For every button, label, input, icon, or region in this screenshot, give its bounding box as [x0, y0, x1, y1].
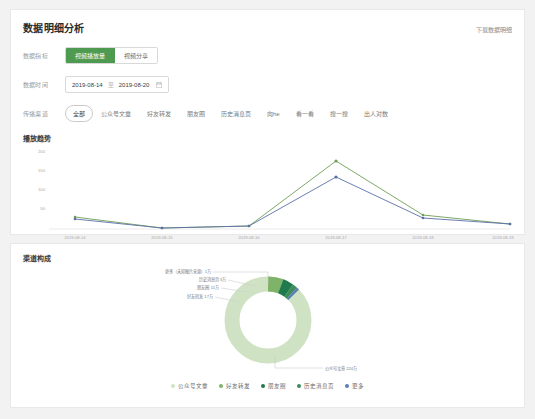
dashboard-page: 数据明细分析 下载数据明细 数据指标 视频播放量 视频分享 数据时间 2019-…: [0, 0, 535, 419]
series-points-plays: [74, 159, 512, 229]
xtick-0: 2019-08-14: [64, 235, 86, 240]
xtick-1: 2019-08-15: [151, 235, 173, 240]
ytick-50: 50: [40, 206, 45, 211]
metric-filter-label: 数据指标: [23, 51, 65, 60]
donut-legend-dot-history-page: [297, 384, 301, 388]
donut-legend-item-more[interactable]: 更多: [345, 382, 364, 390]
line-chart-svg: 200 150 100 50: [23, 145, 514, 245]
trend-section-title: 播放趋势: [23, 133, 512, 143]
callout-more: 更多（未知图片来源）1万: [165, 268, 211, 275]
metric-filter-row: 数据指标 视频播放量 视频分享: [23, 47, 512, 64]
chip-channel-9[interactable]: 出人对数: [356, 105, 396, 122]
donut-legend-dot-friend-share: [219, 384, 223, 388]
playback-trend-chart: 200 150 100 50: [23, 145, 512, 253]
series-points-viewers: [74, 175, 512, 229]
donut-legend-item-friend-share[interactable]: 好友转发: [219, 382, 250, 390]
donut-legend-item-moments[interactable]: 朋友圈: [261, 382, 286, 390]
date-filter-label: 数据时间: [23, 80, 65, 89]
tab-video-shares[interactable]: 视频分享: [115, 48, 157, 63]
chip-history-page[interactable]: 历史消息页: [213, 105, 259, 122]
channel-filter-row: 传播渠道 全部 公众号文章 好友转发 朋友圈 历史消息页 向he 看一看 搜一搜…: [23, 105, 512, 122]
metric-tab-group: 视频播放量 视频分享: [65, 47, 158, 64]
callout-friend-share: 好友转发 17万: [187, 293, 213, 300]
source-donut-chart: 更多（未知图片来源）1万 历史消息页 3万 朋友圈 11万 好友转发 17万 公…: [23, 264, 512, 382]
chip-all[interactable]: 全部: [65, 105, 93, 122]
date-start-value[interactable]: 2019-08-14: [72, 82, 103, 88]
chip-souyisou[interactable]: 搜一搜: [322, 105, 356, 122]
callout-official-article: 公众号文章 224万: [325, 365, 357, 372]
donut-legend-label-more: 更多: [352, 382, 364, 390]
ytick-150: 150: [38, 168, 46, 173]
date-end-value[interactable]: 2019-08-20: [119, 82, 150, 88]
chip-kanyikan[interactable]: 看一看: [288, 105, 322, 122]
xtick-2: 2019-08-16: [238, 235, 260, 240]
donut-legend-label-official-article: 公众号文章: [178, 382, 208, 390]
xtick-3: 2019-08-17: [325, 235, 347, 240]
ytick-200: 200: [38, 149, 46, 154]
donut-chart-legend: 公众号文章 好友转发 朋友圈 历史消息页 更多: [23, 382, 512, 390]
donut-chart-svg: 更多（未知图片来源）1万 历史消息页 3万 朋友圈 11万 好友转发 17万 公…: [23, 264, 514, 382]
channel-filter-label: 传播渠道: [23, 109, 65, 118]
donut-legend-label-moments: 朋友圈: [268, 382, 286, 390]
source-section-title: 渠道构成: [23, 253, 512, 263]
callout-moments: 朋友圈 11万: [197, 284, 219, 291]
series-line-viewers: [75, 177, 510, 228]
page-title: 数据明细分析: [23, 20, 85, 35]
chip-friend-share[interactable]: 好友转发: [139, 105, 179, 122]
card-header: 数据明细分析 下载数据明细: [23, 20, 512, 35]
callout-history-page: 历史消息页 3万: [199, 276, 227, 283]
date-filter-row: 数据时间 2019-08-14 至 2019-08-20: [23, 76, 512, 93]
xtick-5: 2019-08-19: [492, 235, 514, 240]
donut-legend-item-history-page[interactable]: 历史消息页: [297, 382, 334, 390]
date-separator: 至: [108, 80, 114, 89]
donut-legend-label-friend-share: 好友转发: [226, 382, 250, 390]
chip-official-article[interactable]: 公众号文章: [93, 105, 139, 122]
chip-moments[interactable]: 朋友圈: [179, 105, 213, 122]
calendar-icon[interactable]: [156, 82, 162, 88]
channel-chip-group: 全部 公众号文章 好友转发 朋友圈 历史消息页 向he 看一看 搜一搜 出人对数: [65, 105, 396, 122]
donut-legend-dot-official-article: [171, 384, 175, 388]
chip-channel-6[interactable]: 向he: [259, 105, 288, 122]
analytics-card: 数据明细分析 下载数据明细 数据指标 视频播放量 视频分享 数据时间 2019-…: [10, 9, 525, 235]
xtick-4: 2019-08-18: [412, 235, 434, 240]
source-breakdown-card: 渠道构成: [10, 243, 525, 408]
donut-legend-dot-more: [345, 384, 349, 388]
ytick-100: 100: [38, 187, 46, 192]
donut-legend-item-official-article[interactable]: 公众号文章: [171, 382, 208, 390]
date-range-picker[interactable]: 2019-08-14 至 2019-08-20: [65, 76, 169, 93]
download-data-link[interactable]: 下载数据明细: [476, 25, 512, 34]
donut-legend-dot-moments: [261, 384, 265, 388]
tab-video-plays[interactable]: 视频播放量: [66, 48, 115, 63]
donut-legend-label-history-page: 历史消息页: [304, 382, 334, 390]
series-line-plays: [75, 161, 510, 228]
